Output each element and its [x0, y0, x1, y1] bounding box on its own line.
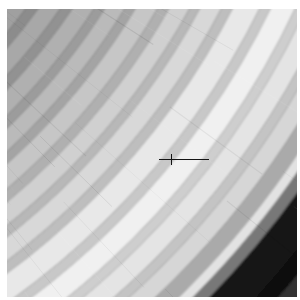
- chart-title: Saturn ring radial brightness profile: [0, 0, 1, 1]
- image-caption: Grayscale close-up of Saturn's ring syst…: [0, 0, 1, 1]
- photo-frame: [7, 9, 297, 297]
- ring-band-render: [7, 9, 297, 297]
- image-alt-text: Monochrome spacecraft image of Saturn's …: [0, 0, 1, 1]
- chart-ylabel: Relative brightness (0-255): [0, 0, 1, 1]
- image-title: Saturn's Rings: [0, 0, 1, 1]
- geometry-description: Ring plane centre lies off-frame to the …: [0, 0, 1, 1]
- chart-xlabel: Radial distance from ring centre (px fro…: [0, 0, 1, 1]
- image-viewport: Saturn's Rings Grayscale close-up of Sat…: [0, 0, 300, 300]
- saturn-rings-image: [7, 9, 297, 297]
